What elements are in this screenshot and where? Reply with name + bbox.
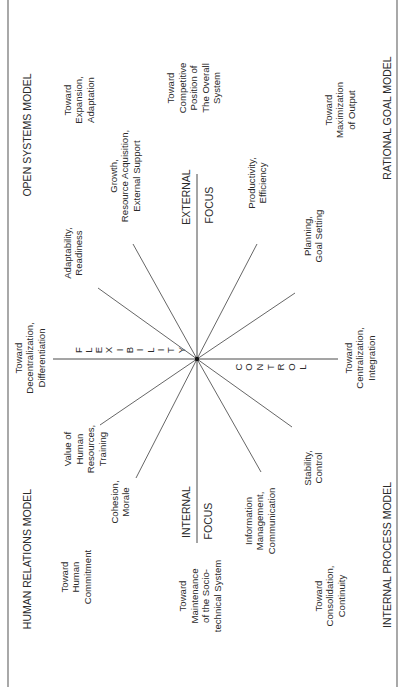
competing-values-diagram: OPEN SYSTEMS MODELRATIONAL GOAL MODELHUM… (0, 0, 414, 687)
control-label: CONTROL (233, 363, 308, 370)
label-line: Integration (366, 335, 377, 380)
label-line: Growth, (108, 159, 119, 193)
label-line: Human (74, 434, 85, 465)
label-line: Centralization, (354, 327, 365, 388)
growth-resource-acquisition: Growth,Resource Acquisition,External Sup… (108, 130, 142, 222)
productivity-efficiency: Productivity,Efficiency (246, 157, 268, 209)
axis-letter: O (286, 363, 297, 370)
label-line: Morale (120, 487, 131, 516)
axis-letter: R (275, 363, 286, 370)
label-line: Stability, (302, 450, 313, 486)
svg-text:EXTERNAL: EXTERNAL (180, 169, 192, 225)
axis-letter: L (297, 364, 308, 369)
spoke-growth (133, 244, 197, 359)
axis-letter: O (243, 363, 254, 370)
svg-text:INTERNAL: INTERNAL (180, 486, 192, 538)
label-line: Readiness (73, 230, 84, 276)
label-line: Toward (313, 581, 324, 612)
label-line: Maximization (334, 82, 345, 138)
label-line: Training (97, 432, 108, 466)
internal-process-model: INTERNAL PROCESS MODEL (381, 482, 393, 628)
external-label: EXTERNAL (180, 169, 192, 225)
cohesion-morale: Cohesion,Morale (109, 480, 132, 523)
toward-decentralization: TowardDecentralization,Differentiation (13, 322, 47, 393)
label-line: Differentiation (36, 328, 47, 387)
label-line: Consolidation, (324, 566, 335, 627)
label-line: Human (70, 562, 81, 593)
label-line: Toward (13, 343, 24, 374)
axis-letter: Y (176, 346, 187, 353)
label-line: of the Socio- (200, 569, 211, 623)
label-line: External Support (131, 140, 142, 212)
spoke-planning (197, 293, 295, 359)
axis-letter: C (233, 363, 244, 370)
label-line: Toward (165, 73, 176, 104)
center-hub (195, 357, 199, 361)
label-line: Adaptability, (62, 227, 73, 279)
label-line: Efficiency (257, 162, 268, 203)
label-line: Goal Setting (313, 210, 324, 263)
label-line: Cohesion, (109, 480, 120, 523)
toward-maintenance: TowardMaintenanceof the Socio-technical … (177, 560, 223, 633)
label-line: Continuity (336, 574, 347, 617)
label-line: Maintenance (189, 569, 200, 624)
toward-consolidation: TowardConsolidation,Continuity (313, 566, 347, 627)
axis-letter: T (265, 364, 276, 370)
spoke-information (197, 359, 261, 472)
label-line: Decentralization, (24, 322, 35, 393)
label-line: Competitive (177, 63, 188, 114)
label-line: Expansion, (73, 76, 84, 123)
label-line: Toward (323, 95, 334, 126)
label-line: Toward (59, 562, 70, 593)
label-line: Control (313, 453, 324, 484)
internal-focus-label: FOCUS (202, 503, 214, 540)
information-management: InformationManagement,Communication (243, 488, 277, 555)
label-line: INTERNAL PROCESS MODEL (381, 482, 393, 628)
label-line: of Output (346, 90, 357, 130)
internal-label: INTERNAL (180, 486, 192, 538)
spoke-productivity (197, 244, 257, 359)
toward-competitive-position: TowardCompetitivePosition ofThe OverallS… (165, 63, 222, 114)
label-line: Value of (62, 431, 73, 466)
open-systems-model: OPEN SYSTEMS MODEL (21, 73, 33, 196)
adaptability-readiness: Adaptability,Readiness (62, 227, 85, 279)
external-focus-label: FOCUS (203, 187, 215, 224)
label-line: Toward (177, 581, 188, 612)
toward-expansion: TowardExpansion,Adaptation (62, 76, 96, 123)
label-line: HUMAN RELATIONS MODEL (21, 489, 33, 630)
label-line: Resource Acquisition, (119, 130, 130, 222)
label-line: Resources, (85, 425, 96, 474)
svg-text:FOCUS: FOCUS (203, 187, 215, 224)
label-line: Adaptation (85, 77, 96, 123)
spoke-cohesion (136, 359, 197, 478)
label-line: Position of (188, 65, 199, 110)
label-line: RATIONAL GOAL MODEL (381, 56, 393, 179)
rational-goal-model: RATIONAL GOAL MODEL (381, 56, 393, 179)
label-line: Planning, (302, 216, 313, 256)
stability-control: Stability,Control (302, 450, 325, 486)
label-line: Toward (343, 343, 354, 374)
axis-letter: N (254, 363, 265, 370)
label-line: Toward (62, 85, 73, 116)
label-line: Productivity, (246, 157, 257, 209)
value-of-human-resources: Value ofHumanResources,Training (62, 425, 108, 474)
toward-maximization: TowardMaximizationof Output (323, 82, 357, 138)
planning-goal-setting: Planning,Goal Setting (302, 210, 325, 263)
label-line: Communication (266, 488, 277, 555)
label-line: The Overall (200, 63, 211, 113)
label-line: Information (243, 497, 254, 545)
label-line: technical System (212, 560, 223, 633)
toward-human-commitment: TowardHumanCommitment (59, 549, 93, 604)
label-line: OPEN SYSTEMS MODEL (21, 73, 33, 196)
label-line: Commitment (82, 549, 93, 604)
svg-text:FOCUS: FOCUS (202, 503, 214, 540)
human-relations-model: HUMAN RELATIONS MODEL (21, 489, 33, 630)
label-line: Management, (254, 492, 265, 551)
label-line: System (211, 72, 222, 104)
toward-centralization: TowardCentralization,Integration (343, 327, 377, 388)
flexibility-label: FLEXIBILITY (73, 346, 187, 353)
spoke-human-resources (100, 359, 197, 425)
diagram-spokes (53, 174, 338, 543)
diagram-labels: OPEN SYSTEMS MODELRATIONAL GOAL MODELHUM… (13, 56, 393, 632)
